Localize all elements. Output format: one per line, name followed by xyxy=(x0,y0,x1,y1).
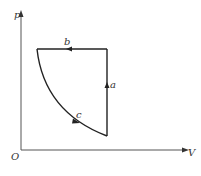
cycle-path xyxy=(37,47,110,137)
process-c-curve xyxy=(37,49,107,136)
origin-label: O xyxy=(11,151,19,162)
pv-diagram: p V O b a c xyxy=(0,0,201,176)
process-b-arrow-icon xyxy=(66,47,72,52)
y-axis-label: p xyxy=(14,9,21,20)
process-c-label: c xyxy=(76,109,82,120)
process-a-label: a xyxy=(110,79,116,90)
x-axis-label: V xyxy=(188,147,197,158)
process-a-arrow-icon xyxy=(105,82,110,88)
process-b-label: b xyxy=(64,36,70,47)
x-axis xyxy=(21,148,189,153)
y-axis xyxy=(19,10,24,150)
